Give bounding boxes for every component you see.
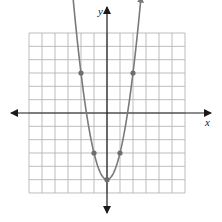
data-point bbox=[130, 70, 135, 75]
axes bbox=[11, 7, 211, 213]
x-axis-label: x bbox=[204, 116, 210, 128]
data-point bbox=[117, 150, 122, 155]
data-point bbox=[104, 177, 109, 182]
data-point bbox=[78, 70, 83, 75]
y-axis-label: y bbox=[97, 5, 103, 17]
data-point bbox=[91, 150, 96, 155]
parabola-chart: y x bbox=[0, 0, 222, 222]
